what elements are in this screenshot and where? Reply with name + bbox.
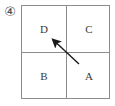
quadrant-bottom-left: B <box>22 53 66 99</box>
quadrant-label-b: B <box>40 70 47 82</box>
quadrant-label-d: D <box>40 23 48 35</box>
quadrant-bottom-right: A <box>67 53 111 99</box>
item-number-label: ④ <box>2 3 18 21</box>
figure-root: ④ D C B A <box>0 0 115 106</box>
quadrant-label-c: C <box>85 23 92 35</box>
quadrant-label-a: A <box>85 70 93 82</box>
quadrant-top-left: D <box>22 6 66 52</box>
quadrant-square: D C B A <box>21 5 110 99</box>
quadrant-top-right: C <box>67 6 111 52</box>
